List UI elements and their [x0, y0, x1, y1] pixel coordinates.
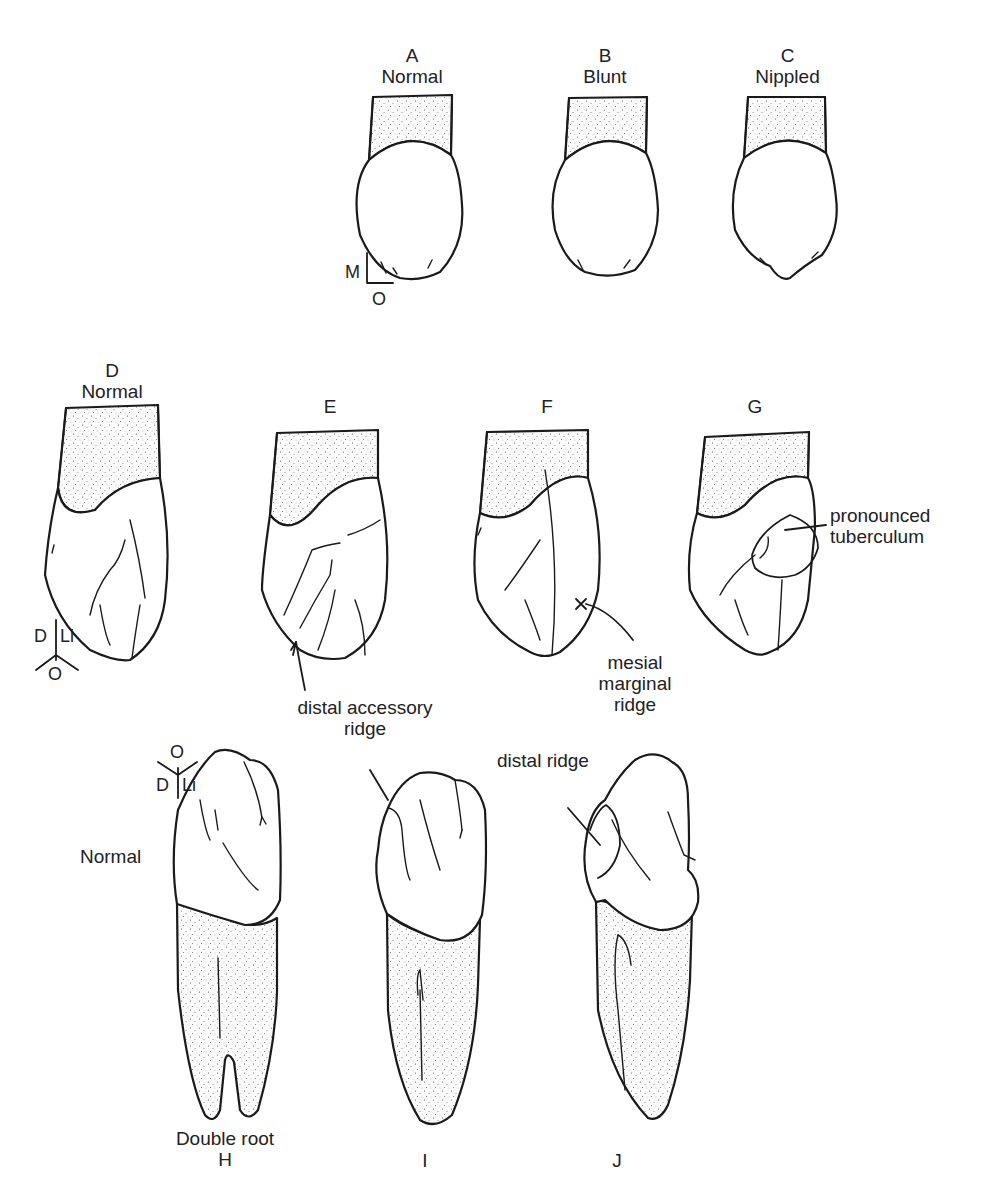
panel-letter: C — [745, 45, 830, 66]
tooth-f — [474, 430, 633, 656]
panel-letter: A — [372, 45, 452, 66]
annotation-line: mesial — [585, 652, 685, 673]
annotation-mesial-marginal-ridge: mesial marginal ridge — [585, 652, 685, 715]
panel-caption: Blunt — [565, 66, 645, 87]
panel-i-label: I — [410, 1150, 440, 1171]
annotation-distal-accessory-ridge: distal accessory ridge — [275, 697, 455, 739]
annotation-line: distal accessory — [275, 697, 455, 718]
axis-label-li: Li — [60, 627, 74, 645]
axis-label-m: M — [345, 263, 360, 281]
panel-caption: Nippled — [745, 66, 830, 87]
annotation-distal-ridge: distal ridge — [497, 750, 589, 771]
axis-label-d: D — [156, 776, 169, 794]
tooth-b-blunt — [553, 97, 658, 276]
panel-h-label: Double root H — [165, 1128, 285, 1170]
tooth-h-double-root — [174, 750, 281, 1119]
annotation-line: ridge — [275, 718, 455, 739]
axis-label-li: Li — [182, 776, 196, 794]
panel-caption: Double root — [165, 1128, 285, 1149]
panel-caption: Normal — [372, 66, 452, 87]
leader-line-distal-accessory-ridge-row3 — [370, 770, 388, 800]
panel-c-label: C Nippled — [745, 45, 830, 87]
axis-label-o: O — [372, 290, 386, 308]
annotation-line: tuberculum — [830, 526, 930, 547]
panel-b-label: B Blunt — [565, 45, 645, 87]
annotation-line: pronounced — [830, 505, 930, 526]
tooth-e — [262, 430, 387, 659]
panel-letter: B — [565, 45, 645, 66]
tooth-a-normal — [357, 95, 463, 279]
panel-f-label: F — [532, 396, 562, 417]
tooth-morphology-figure: A Normal B Blunt C Nippled M O D Normal … — [0, 0, 986, 1202]
panel-e-label: E — [315, 396, 345, 417]
figure-drawings — [0, 0, 986, 1202]
row3-side-label: Normal — [80, 846, 141, 867]
axis-label-o: O — [48, 665, 62, 683]
annotation-pronounced-tuberculum: pronounced tuberculum — [830, 505, 930, 547]
tooth-i — [376, 772, 486, 1124]
panel-letter: H — [165, 1149, 285, 1170]
tooth-g — [689, 432, 826, 655]
annotation-line: ridge — [585, 694, 685, 715]
panel-a-label: A Normal — [372, 45, 452, 87]
panel-g-label: G — [740, 396, 770, 417]
tooth-d-normal — [45, 405, 168, 660]
tooth-j — [568, 754, 698, 1118]
annotation-line: marginal — [585, 673, 685, 694]
panel-caption: Normal — [72, 381, 152, 402]
panel-d-label: D Normal — [72, 360, 152, 402]
axis-label-o: O — [170, 743, 184, 761]
panel-letter: D — [72, 360, 152, 381]
panel-j-label: J — [602, 1150, 632, 1171]
axis-label-d: D — [34, 627, 47, 645]
tooth-c-nippled — [733, 97, 837, 279]
